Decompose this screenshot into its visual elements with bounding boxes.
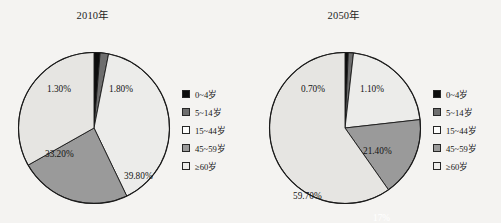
legend-label-0-4: 0~4岁: [195, 88, 217, 100]
pie-panel-2050: 2050年 0.70%1.10%21.40%17%59.70% 0~4岁 5~1…: [251, 0, 501, 223]
pie-panel-2010: 2010年 1.30%1.80%39.80%24%33.20% 0~4岁 5~1…: [0, 0, 250, 223]
legend-label-45-59: 45~59岁: [195, 142, 226, 154]
pie-slice-label: 17%: [373, 213, 390, 223]
legend-label-15-44: 15~44岁: [446, 124, 477, 136]
legend-swatch-5-14: [182, 108, 190, 116]
legend-swatch-0-4: [433, 90, 441, 98]
legend-label-60-plus: ≥60岁: [195, 160, 217, 172]
chart-page: 2010年 1.30%1.80%39.80%24%33.20% 0~4岁 5~1…: [0, 0, 501, 223]
legend-label-5-14: 5~14岁: [195, 106, 222, 118]
pie-chart-2010: 1.30%1.80%39.80%24%33.20%: [17, 51, 171, 205]
legend-item-60-plus[interactable]: ≥60岁: [433, 157, 501, 175]
legend-label-5-14: 5~14岁: [446, 106, 473, 118]
pie-slice-label: 1.80%: [109, 84, 133, 94]
legend-label-60-plus: ≥60岁: [446, 160, 468, 172]
pie-slice-label: 1.10%: [360, 84, 384, 94]
pie-slice-label: 33.20%: [45, 149, 74, 159]
legend-swatch-45-59: [182, 144, 190, 152]
pie-svg-2010: [17, 51, 171, 205]
legend-2050: 0~4岁 5~14岁 15~44岁 45~59岁 ≥60岁: [433, 85, 501, 175]
legend-swatch-15-44: [433, 126, 441, 134]
pie-slice-label: 0.70%: [301, 84, 325, 94]
legend-label-45-59: 45~59岁: [446, 142, 477, 154]
chart-title-2010: 2010年: [0, 7, 185, 22]
legend-label-0-4: 0~4岁: [446, 88, 468, 100]
legend-swatch-60-plus: [182, 162, 190, 170]
legend-swatch-15-44: [182, 126, 190, 134]
legend-2010: 0~4岁 5~14岁 15~44岁 45~59岁 ≥60岁: [182, 85, 250, 175]
legend-item-15-44[interactable]: 15~44岁: [433, 121, 501, 139]
pie-slice-label: 39.80%: [124, 171, 153, 181]
pie-chart-2050: 0.70%1.10%21.40%17%59.70%: [268, 51, 422, 205]
legend-label-15-44: 15~44岁: [195, 124, 226, 136]
legend-item-5-14[interactable]: 5~14岁: [433, 103, 501, 121]
legend-item-60-plus[interactable]: ≥60岁: [182, 157, 250, 175]
legend-swatch-5-14: [433, 108, 441, 116]
legend-item-15-44[interactable]: 15~44岁: [182, 121, 250, 139]
legend-item-45-59[interactable]: 45~59岁: [433, 139, 501, 157]
legend-swatch-0-4: [182, 90, 190, 98]
legend-swatch-45-59: [433, 144, 441, 152]
pie-slice-label: 1.30%: [47, 84, 71, 94]
legend-item-0-4[interactable]: 0~4岁: [182, 85, 250, 103]
pie-slice-label: 59.70%: [293, 191, 322, 201]
pie-svg-2050: [268, 51, 422, 205]
legend-swatch-60-plus: [433, 162, 441, 170]
legend-item-45-59[interactable]: 45~59岁: [182, 139, 250, 157]
legend-item-5-14[interactable]: 5~14岁: [182, 103, 250, 121]
legend-item-0-4[interactable]: 0~4岁: [433, 85, 501, 103]
chart-title-2050: 2050年: [251, 7, 436, 22]
pie-slice-label: 21.40%: [363, 146, 392, 156]
